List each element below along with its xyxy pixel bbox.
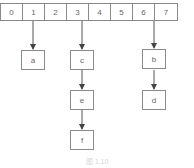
node-d: d [142, 90, 166, 110]
node-b: b [142, 49, 166, 69]
node-f: f [70, 130, 94, 150]
edge-arrows [0, 0, 194, 168]
node-c: c [70, 50, 94, 70]
node-e: e [70, 90, 94, 110]
figure-caption: 图 1.10 [0, 156, 194, 166]
node-a: a [21, 50, 45, 70]
